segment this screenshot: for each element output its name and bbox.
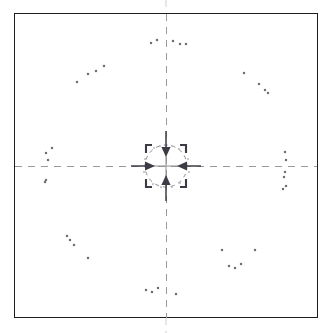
data-point [234,267,237,270]
data-point [51,147,54,150]
data-point [285,185,288,188]
data-point [179,43,182,46]
data-point [264,89,267,92]
data-point [160,186,162,188]
data-point [66,235,69,238]
data-point [45,152,48,155]
data-point [143,171,145,173]
series-quadrant-upper-right [172,40,288,174]
arrow-from-left-icon [131,161,155,170]
data-point [258,83,261,86]
data-point [240,263,243,266]
data-point [283,176,286,179]
data-point [285,159,288,162]
data-point [144,158,146,160]
series-quadrant-lower-left [45,179,160,294]
data-point [228,265,231,268]
data-point [47,159,50,162]
data-point [284,171,287,174]
data-point [243,72,246,75]
data-point [221,249,224,252]
data-point [178,148,180,150]
data-point [150,42,153,45]
data-point [171,145,173,147]
data-point [103,65,106,68]
arrow-from-top-icon [161,131,170,157]
series-quadrant-upper-left [44,39,159,184]
data-point [175,293,178,296]
plot-canvas [0,0,332,333]
data-point [171,186,173,188]
data-point [45,179,48,182]
data-point [69,239,72,242]
data-point [282,188,285,191]
data-point [157,287,160,290]
data-point [95,70,98,73]
data-point [188,171,190,173]
data-point [284,151,287,154]
data-point [179,182,181,184]
data-point [187,158,189,160]
data-point [267,92,270,95]
data-point [172,40,175,43]
data-point [152,183,154,185]
data-point [156,39,159,42]
data-point [76,81,79,84]
data-point [87,257,90,260]
data-point [87,73,90,76]
arrow-from-right-icon [177,161,201,170]
arrow-from-bottom-icon [161,175,170,201]
data-point [151,291,154,294]
data-point [145,289,148,292]
data-point [254,249,257,252]
scatter-plot-figure [0,0,332,333]
data-point [73,244,76,247]
data-point [185,43,188,46]
data-point [159,145,161,147]
series-quadrant-lower-right [175,176,288,296]
data-point [153,147,155,149]
